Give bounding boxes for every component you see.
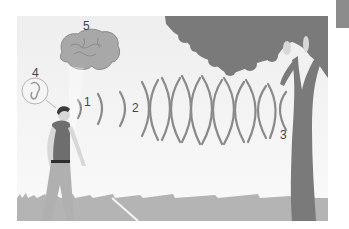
label-2: 2 (132, 101, 139, 115)
label-4: 4 (32, 66, 39, 80)
label-5: 5 (83, 19, 90, 33)
echolocation-illustration: 5 4 1 2 3 (0, 0, 349, 229)
label-1: 1 (84, 95, 91, 109)
label-3: 3 (280, 128, 287, 142)
